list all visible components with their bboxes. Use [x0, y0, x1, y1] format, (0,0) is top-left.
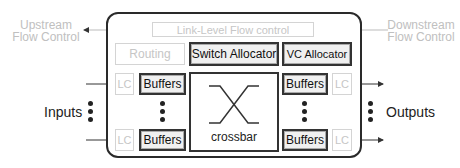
output-buffers-ellipsis — [302, 101, 307, 122]
routing-box: Routing — [115, 43, 185, 65]
downstream-line2: Flow Control — [386, 31, 456, 43]
inputs-label: Inputs — [44, 104, 82, 120]
input-buffers-bottom: Buffers — [139, 129, 186, 151]
output-buffers-bottom: Buffers — [282, 129, 328, 151]
upstream-flow-control-label: Upstream Flow Control — [8, 19, 84, 43]
input-buffers-top: Buffers — [139, 73, 186, 95]
downstream-flow-control-label: Downstream Flow Control — [386, 19, 456, 43]
link-level-flow-control-box: Link-Level Flow control — [152, 22, 314, 37]
crossbar-box: crossbar — [189, 72, 279, 152]
outputs-ellipsis — [368, 101, 373, 122]
vc-allocator-box: VC Allocator — [282, 42, 352, 66]
input-lc-bottom: LC — [115, 129, 134, 151]
outputs-label: Outputs — [386, 104, 435, 120]
upstream-line2: Flow Control — [8, 31, 84, 43]
switch-allocator-box: Switch Allocator — [189, 42, 279, 66]
input-lc-top: LC — [115, 73, 134, 95]
inputs-ellipsis — [88, 101, 93, 122]
output-lc-top: LC — [332, 73, 352, 95]
input-buffers-ellipsis — [160, 101, 165, 122]
crossbar-label: crossbar — [191, 130, 277, 144]
output-buffers-top: Buffers — [282, 73, 328, 95]
output-lc-bottom: LC — [332, 129, 352, 151]
